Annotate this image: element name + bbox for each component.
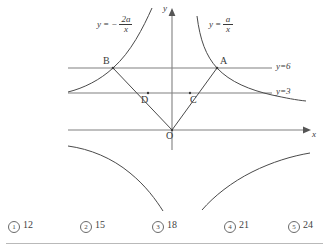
- equation-label-left-curve: y = − 2a x: [97, 14, 132, 34]
- point-B-marker: [112, 67, 115, 70]
- x-axis-arrow-icon: [303, 127, 311, 134]
- option-3-label: 18: [167, 219, 177, 230]
- option-4[interactable]: 421: [224, 220, 249, 233]
- label-line-y3: y=3: [276, 87, 291, 96]
- label-point-C: C: [190, 95, 197, 105]
- option-2-marker: 2: [80, 221, 92, 233]
- y-axis-arrow-icon: [169, 8, 176, 16]
- page-bottom-rule: [6, 243, 323, 244]
- figure-area: y = − 2a x y = a x y=6 y=3 y x A B C D O: [0, 0, 329, 215]
- coordinate-figure: [0, 0, 329, 215]
- option-1[interactable]: 112: [8, 220, 33, 233]
- option-5-label: 24: [303, 219, 313, 230]
- equation-left-fraction: 2a x: [119, 15, 132, 35]
- option-2[interactable]: 215: [80, 220, 105, 233]
- equation-left-lhs: y: [97, 20, 101, 29]
- label-point-A: A: [220, 56, 227, 66]
- label-line-y6: y=6: [276, 62, 291, 71]
- equation-left-denominator: x: [122, 25, 130, 34]
- equation-left-numerator: 2a: [119, 15, 132, 24]
- point-A-marker: [216, 67, 219, 70]
- label-point-B: B: [103, 56, 110, 66]
- curve-a-over-x-q3: [202, 153, 310, 210]
- equation-right-fraction: a x: [223, 15, 233, 35]
- answer-options-row: 112 215 318 421 524: [0, 216, 329, 238]
- option-5[interactable]: 524: [288, 220, 313, 233]
- option-2-label: 15: [95, 219, 105, 230]
- label-y-axis: y: [163, 4, 167, 13]
- curve-neg2a-over-x-q4: [68, 146, 163, 211]
- equation-left-operator: = −: [103, 20, 117, 29]
- option-4-marker: 4: [224, 221, 236, 233]
- option-5-marker: 5: [288, 221, 300, 233]
- option-1-marker: 1: [8, 221, 20, 233]
- label-point-O: O: [166, 131, 173, 141]
- equation-label-right-curve: y = a x: [209, 14, 233, 34]
- equation-right-denominator: x: [224, 25, 232, 34]
- equation-right-operator: =: [215, 20, 221, 29]
- option-1-label: 12: [23, 219, 33, 230]
- equation-right-numerator: a: [224, 15, 233, 24]
- equation-right-lhs: y: [209, 20, 213, 29]
- option-3-marker: 3: [152, 221, 164, 233]
- option-3[interactable]: 318: [152, 220, 177, 233]
- label-x-axis: x: [312, 130, 316, 139]
- option-4-label: 21: [239, 219, 249, 230]
- label-point-D: D: [141, 95, 148, 105]
